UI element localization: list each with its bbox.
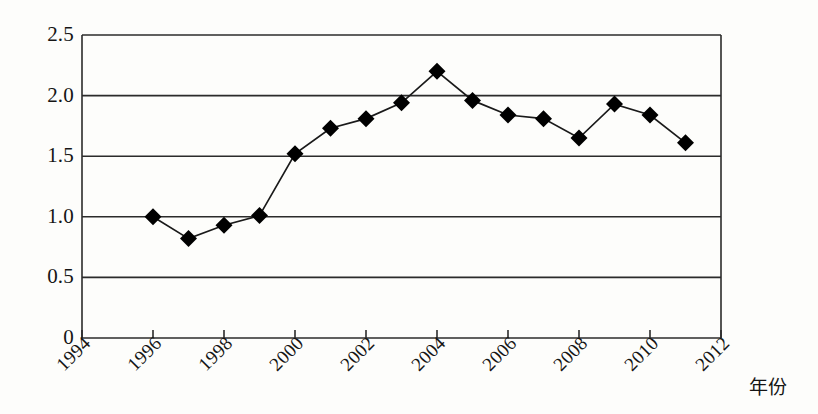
y-axis-tick-label: 1.0 — [47, 204, 74, 229]
chart-canvas — [0, 0, 818, 414]
data-series-line — [153, 71, 686, 238]
y-axis-tick-label: 1.5 — [47, 143, 74, 168]
y-axis-tick-label: 2.0 — [47, 83, 74, 108]
plot-frame — [82, 35, 721, 338]
x-axis-ticks — [82, 330, 721, 338]
plot-gridlines — [82, 35, 721, 338]
y-axis-tick-label: 2.5 — [47, 22, 74, 47]
x-axis-title: 年份 — [749, 372, 787, 399]
line-chart: 00.51.01.52.02.5 19941996199820002002200… — [0, 0, 818, 414]
data-point-markers — [145, 63, 695, 247]
y-axis-tick-label: 0.5 — [47, 264, 74, 289]
